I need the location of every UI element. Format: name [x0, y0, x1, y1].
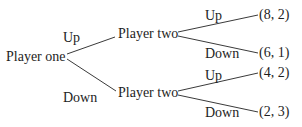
edge-p1-down: [67, 59, 116, 91]
move-label-p2a-up: Up: [205, 9, 222, 23]
payoff-up-down: (6, 1): [259, 46, 289, 60]
node-player-two-top: Player two: [118, 27, 178, 41]
node-player-two-bottom: Player two: [118, 86, 178, 100]
node-player-one: Player one: [6, 50, 65, 64]
payoff-down-up: (4, 2): [259, 66, 289, 80]
move-label-p1-up: Up: [63, 31, 80, 45]
move-label-p2a-down: Down: [205, 47, 239, 61]
move-label-p1-down: Down: [63, 91, 97, 105]
move-label-p2b-down: Down: [205, 106, 239, 120]
payoff-up-up: (8, 2): [259, 8, 289, 22]
payoff-down-down: (2, 3): [259, 105, 289, 119]
move-label-p2b-up: Up: [205, 69, 222, 83]
game-tree-diagram: Player one Up Down Player two Player two…: [0, 0, 302, 127]
